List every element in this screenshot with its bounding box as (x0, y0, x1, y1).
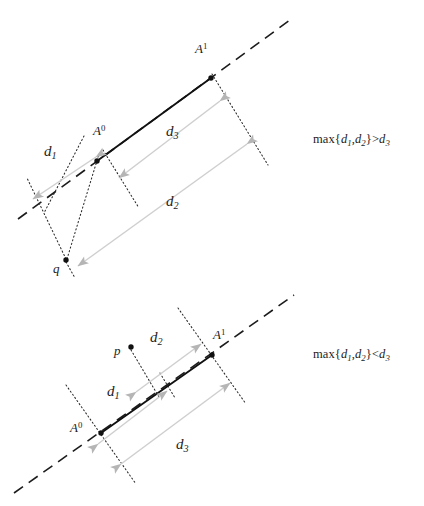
bottom-condition-formula: max{d1,d2}<d3 (313, 347, 390, 363)
top-panel-geometry (18, 20, 290, 278)
top-label-d1: d1 (44, 144, 57, 161)
top-solid-segment-a0-a1 (97, 78, 211, 161)
top-arrow-d1 (33, 157, 96, 199)
top-point-q (63, 257, 68, 262)
bottom-point-p (128, 344, 133, 349)
top-point-a1 (208, 75, 213, 80)
top-dotted-perpendicular-a1 (212, 74, 268, 165)
bottom-label-a1: A1 (213, 328, 225, 341)
top-dotted-stub-below-q (66, 262, 75, 278)
bottom-panel-geometry (14, 295, 294, 493)
top-arrow-d2 (78, 144, 247, 266)
bottom-label-d2: d2 (150, 330, 163, 347)
bottom-label-d3: d3 (176, 437, 189, 454)
figure-root: A0 A1 q d1 d3 d2 max{d1,d2}>d3 A0 A1 p d… (0, 0, 424, 506)
diagram-canvas (0, 0, 424, 506)
top-label-d3: d3 (166, 124, 179, 141)
top-dotted-ray-q-to-a0 (67, 154, 99, 259)
bottom-point-a1 (209, 352, 214, 357)
top-condition-formula: max{d1,d2}>d3 (313, 132, 390, 148)
top-label-a1: A1 (195, 42, 207, 55)
bottom-dashed-line (14, 295, 294, 493)
bottom-label-d1: d1 (107, 384, 120, 401)
bottom-label-p: p (114, 344, 121, 357)
top-label-d2: d2 (166, 194, 179, 211)
bottom-point-a0 (98, 430, 103, 435)
bottom-label-a0: A0 (70, 421, 82, 434)
top-label-q: q (53, 262, 60, 275)
top-dotted-perpendicular-a0-lower (103, 150, 139, 208)
top-label-a0: A0 (93, 124, 105, 137)
top-point-a0 (94, 158, 99, 163)
bottom-dotted-ray-from-p (131, 350, 159, 397)
